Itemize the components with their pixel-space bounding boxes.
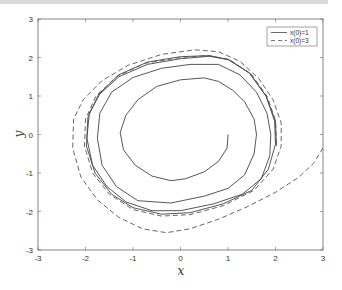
x-tick-label: 2 xyxy=(273,254,278,263)
x-tick-label: -2 xyxy=(82,254,90,263)
y-tick-label: -2 xyxy=(26,208,34,217)
legend-label-2: x(0)=3 xyxy=(290,37,309,45)
y-tick-label: -1 xyxy=(26,169,34,178)
phase-portrait-chart: -3-2-10123 3210-1-2-3 x y x(0)=1 x(0)=3 xyxy=(0,0,342,290)
plot-area xyxy=(38,19,323,250)
x-axis-label: x xyxy=(178,264,185,278)
legend: x(0)=1 x(0)=3 xyxy=(267,27,317,46)
x-tick-label: 3 xyxy=(321,254,326,263)
legend-label-1: x(0)=1 xyxy=(290,29,309,37)
x-tick-label: 0 xyxy=(178,254,183,263)
y-tick-label: 2 xyxy=(29,54,34,63)
y-tick-label: 1 xyxy=(29,92,34,101)
x-tick-label: 1 xyxy=(226,254,231,263)
x-tick-label: -3 xyxy=(34,254,42,263)
y-axis-label: y xyxy=(12,130,26,138)
y-tick-label: -3 xyxy=(26,246,34,255)
y-tick-label: 0 xyxy=(29,131,34,140)
y-tick-label: 3 xyxy=(29,15,34,24)
x-tick-label: -1 xyxy=(129,254,137,263)
